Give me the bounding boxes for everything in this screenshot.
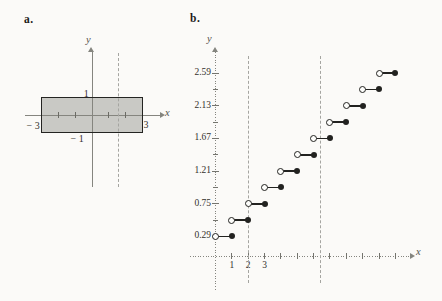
step-closed-endpoint [327, 135, 333, 141]
step-closed-endpoint [392, 70, 398, 76]
figure-b-y-axis-label: y [207, 33, 212, 44]
figure-b-x-tick [379, 253, 380, 259]
figure-b-x-tick [231, 253, 232, 259]
step-open-endpoint [294, 151, 301, 158]
step-open-endpoint [245, 200, 252, 207]
figure-b-x-tick [280, 253, 281, 259]
step-open-endpoint [261, 184, 268, 191]
figure-b-y-tick [212, 171, 219, 172]
figure-b-x-tick [362, 253, 363, 259]
figure-b-dashed-line [248, 56, 249, 283]
figure-b-y-tick [212, 73, 219, 74]
figure-b-y-tick-label: 2.59 [171, 67, 211, 77]
step-open-endpoint [310, 135, 317, 142]
figure-b-y-minor-tick [213, 220, 218, 221]
figure-b-x-axis-arrow [410, 253, 415, 259]
step-closed-endpoint [229, 233, 235, 239]
step-open-endpoint [376, 70, 383, 77]
figure-b-y-axis-arrow [212, 47, 218, 52]
step-open-endpoint [277, 168, 284, 175]
figure-b-x-tick [346, 253, 347, 259]
step-open-endpoint [359, 86, 366, 93]
figure-b-y-minor-tick [213, 187, 218, 188]
figure-b-x-tick [395, 253, 396, 259]
figure-b-y-tick-label: 2.13 [171, 100, 211, 110]
step-open-endpoint [212, 233, 219, 240]
step-open-endpoint [343, 102, 350, 109]
figure-b-x-tick [297, 253, 298, 259]
step-closed-endpoint [376, 86, 382, 92]
figure-b-x-tick-label: 1 [229, 260, 234, 270]
figure-b-x-tick [313, 253, 314, 259]
figure-a-y-axis-arrow [88, 47, 94, 52]
figure-b-x-axis-label: x [416, 246, 421, 257]
figure-b-y-minor-tick [213, 122, 218, 123]
figure-a-annotation: 3 [143, 119, 148, 130]
figure-a-x-axis-arrow [160, 112, 165, 118]
figure-b-panel-label: b. [190, 12, 200, 24]
step-closed-endpoint [245, 217, 251, 223]
figure-b-x-tick-label: 3 [262, 260, 267, 270]
figure-a-panel-label: a. [24, 13, 34, 25]
figure-a-x-axis-label: x [165, 107, 170, 118]
figure-b-y-tick-label: 0.29 [171, 230, 211, 240]
step-closed-endpoint [294, 168, 300, 174]
step-open-endpoint [326, 119, 333, 126]
figure-b-x-tick [329, 253, 330, 259]
step-closed-endpoint [343, 119, 349, 125]
figure-a-y-axis-label: y [86, 34, 91, 45]
figure-b-y-tick [212, 105, 219, 106]
figure-b-y-minor-tick [213, 89, 218, 90]
figure-b-y-tick-label: 1.21 [171, 165, 211, 175]
step-closed-endpoint [360, 103, 366, 109]
figure-b-y-minor-tick [213, 154, 218, 155]
figure-a-annotation: 1 [84, 87, 89, 98]
step-closed-endpoint [278, 184, 284, 190]
figure-b-x-tick [264, 253, 265, 259]
step-closed-endpoint [311, 152, 317, 158]
figure-b-y-tick-label: 1.67 [171, 132, 211, 142]
figure-b-dashed-line [320, 56, 321, 283]
figure-a-annotation: − 1 [71, 132, 84, 143]
figure-a-annotation: − 3 [26, 120, 39, 131]
figure-a-dashed-line [118, 53, 119, 187]
figure-a-region-border [41, 97, 143, 133]
figure-b-y-tick [212, 138, 219, 139]
step-open-endpoint [228, 217, 235, 224]
step-closed-endpoint [262, 201, 268, 207]
figure-b-y-tick [212, 203, 219, 204]
textbook-answer-figures: a. b. y x y x 1− 1− 331230.290.751.211.6… [0, 0, 442, 301]
figure-b-y-tick-label: 0.75 [171, 198, 211, 208]
